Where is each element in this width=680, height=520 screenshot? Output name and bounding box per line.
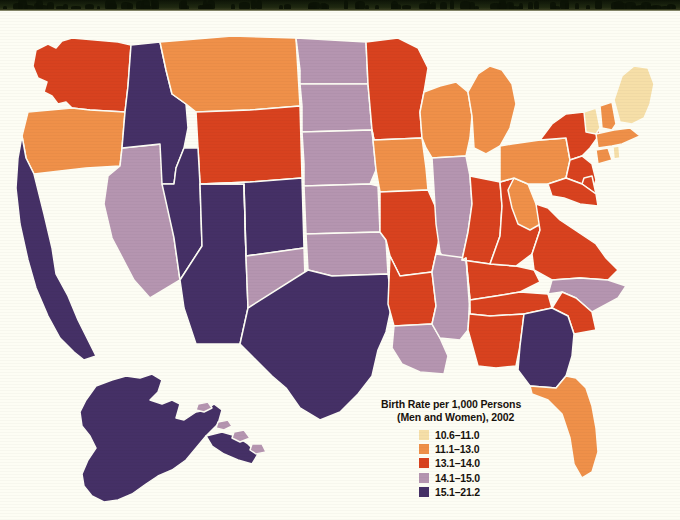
legend-title: Birth Rate per 1,000 Persons (Men and Wo… xyxy=(381,398,586,424)
state-ma xyxy=(596,128,640,148)
legend-swatch xyxy=(419,444,429,454)
state-hi xyxy=(216,420,232,430)
legend-row: 15.1–21.2 xyxy=(419,485,586,499)
state-sd xyxy=(300,84,372,132)
state-ct xyxy=(596,148,612,164)
legend-rows: 10.6–11.011.1–13.013.1–14.014.1–15.015.1… xyxy=(381,428,586,499)
state-nd xyxy=(296,38,368,84)
state-or xyxy=(22,108,125,174)
legend-row: 13.1–14.0 xyxy=(419,456,586,470)
state-pa xyxy=(500,138,570,184)
state-ri xyxy=(613,146,620,159)
legend-title-line1: Birth Rate per 1,000 Persons xyxy=(381,398,521,410)
state-ak xyxy=(80,374,222,502)
state-mn xyxy=(366,38,428,140)
state-wi xyxy=(420,82,472,158)
legend-label: 11.1–13.0 xyxy=(435,444,479,454)
state-ks xyxy=(304,184,380,234)
map-page: Birth Rate per 1,000 Persons (Men and Wo… xyxy=(0,0,680,520)
state-me xyxy=(614,66,654,124)
legend-swatch xyxy=(419,458,429,468)
legend-label: 10.6–11.0 xyxy=(435,430,479,440)
legend-title-line2: (Men and Women), 2002 xyxy=(381,411,586,424)
legend-swatch xyxy=(419,487,429,497)
state-va xyxy=(532,204,618,280)
state-wa xyxy=(33,38,131,112)
map-legend: Birth Rate per 1,000 Persons (Men and Wo… xyxy=(381,398,586,499)
state-wy xyxy=(196,106,302,184)
state-mi xyxy=(468,66,516,154)
legend-row: 10.6–11.0 xyxy=(419,428,586,442)
legend-swatch xyxy=(419,430,429,440)
legend-label: 15.1–21.2 xyxy=(435,487,480,497)
state-hi xyxy=(250,444,266,454)
legend-label: 14.1–15.0 xyxy=(435,473,480,483)
state-vt xyxy=(584,108,600,134)
state-ms xyxy=(432,254,470,340)
state-ok xyxy=(306,232,388,276)
legend-swatch xyxy=(419,473,429,483)
legend-row: 11.1–13.0 xyxy=(419,442,586,456)
state-mt xyxy=(160,36,300,112)
state-nh xyxy=(600,102,616,130)
legend-row: 14.1–15.0 xyxy=(419,471,586,485)
legend-label: 13.1–14.0 xyxy=(435,458,480,468)
state-ia xyxy=(372,130,428,192)
state-ne xyxy=(302,130,376,186)
